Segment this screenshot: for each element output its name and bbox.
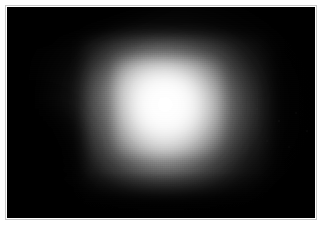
- glow-core: [115, 59, 223, 155]
- shadow-bottom: [7, 172, 315, 218]
- glow-mantle: [83, 37, 273, 197]
- shadow-notch-left: [7, 91, 113, 211]
- image-field: [7, 7, 315, 218]
- glow-lobe-right: [139, 29, 299, 179]
- shadow-wedge-top: [7, 7, 204, 67]
- image-noise-overlay: [7, 7, 315, 218]
- image-viewport: diffuse luminous blob: [0, 0, 328, 230]
- glow-halo: [37, 7, 315, 218]
- glow-tail-lower: [79, 103, 259, 218]
- artifact-speckles: [245, 101, 315, 159]
- shadow-right: [257, 7, 315, 218]
- glow-hotspot: [135, 77, 197, 133]
- glow-arm-upper-left: [35, 22, 210, 169]
- photo-frame: [0, 0, 328, 230]
